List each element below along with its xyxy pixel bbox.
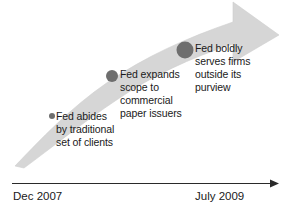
axis-end-label: July 2009 bbox=[195, 189, 244, 203]
time-axis-arrowhead bbox=[270, 180, 279, 188]
milestone-label-1: Fed abides by traditional set of clients bbox=[56, 110, 114, 149]
milestone-label-3: Fed boldly serves firms outside its purv… bbox=[195, 42, 250, 94]
milestone-dot-3 bbox=[177, 42, 194, 59]
milestone-label-2: Fed expands scope to commercial paper is… bbox=[120, 68, 182, 120]
milestone-dot-1 bbox=[49, 113, 55, 119]
milestone-dot-2 bbox=[106, 70, 118, 82]
timeline-diagram: Fed abides by traditional set of clients… bbox=[0, 0, 285, 213]
axis-start-label: Dec 2007 bbox=[13, 189, 62, 203]
